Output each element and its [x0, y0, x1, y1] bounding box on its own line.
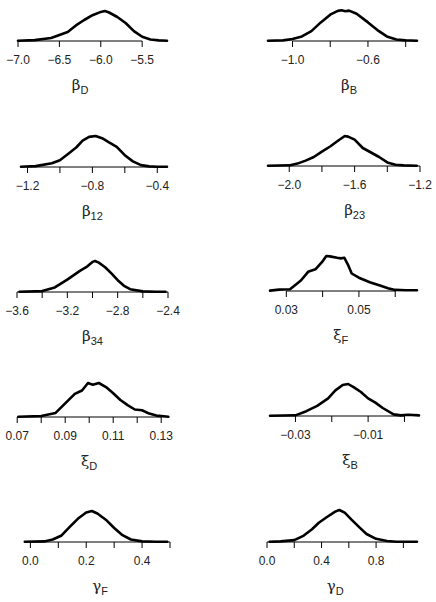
x-axis-label: γF [92, 577, 108, 597]
x-axis-label-subscript: D [89, 460, 97, 472]
x-tick-label: 0.09 [54, 429, 78, 443]
x-axis-label-subscript: 34 [91, 335, 103, 347]
density-panel-3: −1.2−0.8−0.4β12 [16, 136, 170, 222]
density-panel-7: 0.070.090.110.13ξD [6, 383, 174, 472]
x-tick-label: 0.4 [134, 554, 151, 568]
x-tick-label: −3.2 [55, 304, 79, 318]
x-axis-label: βD [72, 76, 89, 96]
x-tick-label: −6.5 [48, 53, 72, 67]
x-axis-label-symbol: ξ [342, 451, 350, 469]
x-tick-label: −3.6 [5, 304, 29, 318]
x-axis-label-subscript: D [80, 84, 88, 96]
density-panel-10: 0.00.40.8γD [259, 510, 417, 597]
x-axis-label-symbol: β [82, 327, 91, 345]
x-axis-label-subscript: F [342, 334, 349, 346]
x-axis-label-symbol: β [344, 201, 353, 219]
x-axis-label: ξF [333, 326, 348, 346]
posterior-density-figure: −7.0−6.5−6.0−5.5βD−1.0−0.6βB−1.2−0.8−0.4… [0, 0, 436, 602]
density-panel-2: −1.0−0.6βB [268, 10, 417, 96]
x-tick-label: 0.2 [78, 554, 95, 568]
x-tick-label: −1.2 [408, 178, 432, 192]
x-axis-label-symbol: ξ [333, 326, 341, 344]
x-tick-label: 0.05 [347, 303, 371, 317]
x-tick-label: −2.0 [277, 178, 301, 192]
x-axis-label-subscript: 23 [353, 209, 365, 221]
density-panel-5: −3.6−3.2−2.8−2.4β34 [5, 261, 180, 347]
x-axis-label: β34 [82, 327, 103, 347]
x-tick-label: 0.0 [259, 554, 276, 568]
x-axis-label-symbol: γ [327, 577, 336, 595]
x-tick-label: −0.8 [81, 179, 105, 193]
x-tick-label: 0.4 [313, 554, 330, 568]
x-axis-label-subscript: F [101, 585, 108, 597]
x-axis-label: γD [327, 577, 344, 597]
x-axis-label-symbol: β [82, 202, 91, 220]
x-tick-label: −0.6 [356, 53, 380, 67]
x-tick-label: 0.8 [368, 554, 385, 568]
density-curve [270, 510, 417, 542]
x-axis-label: ξB [342, 451, 358, 471]
x-tick-label: 0.0 [22, 554, 39, 568]
x-axis-label-symbol: β [341, 76, 350, 94]
density-curve [25, 511, 167, 542]
x-tick-label: −2.4 [156, 304, 180, 318]
density-curve [270, 384, 419, 416]
x-axis-label: β12 [82, 202, 103, 222]
density-curve [21, 136, 167, 167]
x-tick-label: −0.4 [145, 179, 169, 193]
x-tick-label: −1.2 [16, 179, 40, 193]
density-panel-8: −0.03−0.01ξB [270, 384, 419, 471]
x-axis-label: ξD [81, 452, 97, 472]
density-curve [268, 136, 417, 166]
density-curve [20, 261, 166, 292]
density-curve [18, 383, 168, 417]
x-tick-label: −6.0 [89, 53, 113, 67]
x-axis-label-symbol: ξ [81, 452, 89, 470]
x-tick-label: −1.0 [281, 53, 305, 67]
x-axis-label: βB [341, 76, 357, 96]
x-tick-label: −5.5 [130, 53, 154, 67]
density-curve [270, 256, 417, 291]
x-tick-label: −1.6 [343, 178, 367, 192]
x-tick-label: −2.8 [106, 304, 130, 318]
x-tick-label: −0.03 [280, 428, 311, 442]
x-tick-label: −0.01 [353, 428, 384, 442]
x-tick-label: 0.03 [275, 303, 299, 317]
x-axis-label-subscript: B [350, 84, 357, 96]
x-axis-label-symbol: γ [92, 577, 101, 595]
x-axis-label-subscript: D [336, 585, 344, 597]
x-axis-label-subscript: B [350, 459, 357, 471]
x-tick-label: 0.13 [150, 429, 174, 443]
density-curve [18, 11, 167, 41]
density-panel-4: −2.0−1.6−1.2β23 [268, 136, 432, 221]
x-tick-label: −7.0 [6, 53, 30, 67]
density-panel-6: 0.030.05ξF [270, 256, 417, 346]
x-tick-label: 0.07 [6, 429, 30, 443]
density-panel-1: −7.0−6.5−6.0−5.5βD [6, 11, 167, 96]
x-axis-label: β23 [344, 201, 365, 221]
x-axis-label-symbol: β [72, 76, 81, 94]
density-curve [268, 10, 417, 40]
x-axis-label-subscript: 12 [91, 210, 103, 222]
density-panel-9: 0.00.20.4γF [22, 511, 170, 597]
x-tick-label: 0.11 [102, 429, 125, 443]
